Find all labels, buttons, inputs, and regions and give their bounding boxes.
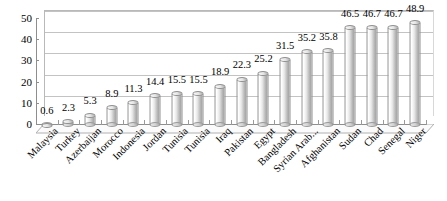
bar-chart: 01020304050 0.62.35.38.911.314.415.515.5… xyxy=(0,0,447,201)
x-axis-tick-mark xyxy=(101,120,102,125)
bar-value-label: 46.5 xyxy=(341,9,359,20)
bar-value-label: 8.9 xyxy=(105,89,118,100)
bar-slot[interactable]: 46.5 xyxy=(339,18,361,124)
x-axis-tick-mark xyxy=(426,120,427,125)
bar-cylinder[interactable] xyxy=(63,119,74,124)
x-axis-category-label: Sudan xyxy=(338,126,364,152)
bar-body xyxy=(236,80,247,124)
x-axis-tick-mark xyxy=(361,120,362,125)
bar-top-ellipse xyxy=(410,20,421,25)
bar-top-ellipse xyxy=(85,113,96,118)
bar-body xyxy=(215,87,226,124)
bar-slot[interactable]: 18.9 xyxy=(209,18,231,124)
bar-cylinder[interactable] xyxy=(128,100,139,124)
bar-body xyxy=(410,23,421,124)
bar-body xyxy=(301,52,312,124)
bar-body xyxy=(388,28,399,124)
bar-cylinder[interactable] xyxy=(280,57,291,124)
bar-cylinder[interactable] xyxy=(171,91,182,124)
bar-cylinder[interactable] xyxy=(41,123,52,125)
x-axis-tick-mark xyxy=(383,120,384,125)
y-axis-tick-label: 20 xyxy=(21,76,32,87)
x-axis-tick-mark xyxy=(123,120,124,125)
x-axis-tick-mark xyxy=(79,120,80,125)
bar-top-ellipse xyxy=(128,100,139,105)
bar-cylinder[interactable] xyxy=(410,20,421,124)
bar-body xyxy=(128,103,139,124)
bar-value-label: 5.3 xyxy=(84,96,97,107)
bar-top-ellipse xyxy=(301,49,312,54)
bar-cylinder[interactable] xyxy=(236,77,247,124)
bar-value-label: 18.9 xyxy=(211,67,229,78)
bar-top-ellipse xyxy=(345,25,356,30)
bar-cylinder[interactable] xyxy=(345,25,356,124)
bar-top-ellipse xyxy=(258,71,269,76)
bar-cylinder[interactable] xyxy=(301,49,312,124)
x-axis-tick-mark xyxy=(318,120,319,125)
bar-value-label: 0.6 xyxy=(40,106,53,117)
y-axis-tick-label: 0 xyxy=(27,119,33,130)
bar-top-ellipse xyxy=(236,77,247,82)
x-axis-category-labels: MalaysiaTurkeyAzerbaijanMoroccoIndonesia… xyxy=(36,126,434,201)
bar-cylinder[interactable] xyxy=(106,105,117,124)
bar-cylinder[interactable] xyxy=(366,25,377,124)
bar-slot[interactable]: 22.3 xyxy=(231,18,253,124)
bar-slot[interactable]: 35.8 xyxy=(318,18,340,124)
x-axis-tick-mark xyxy=(58,120,59,125)
y-axis-tick-label: 40 xyxy=(21,34,32,45)
bar-slot[interactable]: 8.9 xyxy=(101,18,123,124)
y-axis-tick-mark xyxy=(36,103,39,104)
bar-slot[interactable]: 35.2 xyxy=(296,18,318,124)
x-axis-tick-mark xyxy=(404,120,405,125)
bar-body xyxy=(280,60,291,124)
bar-cylinder[interactable] xyxy=(150,93,161,124)
bar-slot[interactable]: 5.3 xyxy=(79,18,101,124)
x-axis-tick-mark xyxy=(188,120,189,125)
bar-value-label: 22.3 xyxy=(233,60,251,71)
bar-slot[interactable]: 2.3 xyxy=(58,18,80,124)
x-axis-tick-mark xyxy=(274,120,275,125)
y-axis-tick-label: 50 xyxy=(21,13,32,24)
bar-slot[interactable]: 0.6 xyxy=(36,18,58,124)
bar-value-label: 14.4 xyxy=(146,77,164,88)
y-axis-tick-label: 30 xyxy=(21,55,32,66)
x-axis-tick-mark xyxy=(231,120,232,125)
bar-body xyxy=(258,74,269,124)
x-axis-category-label: Niger xyxy=(404,126,428,150)
bar-top-ellipse xyxy=(215,84,226,89)
bar-slot[interactable]: 14.4 xyxy=(144,18,166,124)
bar-slot[interactable]: 15.5 xyxy=(166,18,188,124)
bar-top-ellipse xyxy=(366,25,377,30)
bar-slot[interactable]: 48.9 xyxy=(404,18,426,124)
bar-cylinder[interactable] xyxy=(193,91,204,124)
x-axis-tick-mark xyxy=(296,120,297,125)
x-axis-tick-mark xyxy=(253,120,254,125)
bar-top-ellipse xyxy=(106,105,117,110)
bar-cylinder[interactable] xyxy=(215,84,226,124)
y-axis-tick-label: 10 xyxy=(21,97,32,108)
y-axis-tick-mark xyxy=(36,39,39,40)
y-axis-tick-mark xyxy=(36,60,39,61)
bar-cylinder[interactable] xyxy=(85,113,96,124)
bar-top-ellipse xyxy=(388,25,399,30)
bar-cylinder[interactable] xyxy=(258,71,269,124)
bar-slot[interactable]: 31.5 xyxy=(274,18,296,124)
bar-value-label: 15.5 xyxy=(168,75,186,86)
bar-slot[interactable]: 15.5 xyxy=(188,18,210,124)
bar-value-label: 15.5 xyxy=(189,75,207,86)
bar-value-label: 46.7 xyxy=(384,9,402,20)
bar-slot[interactable]: 46.7 xyxy=(361,18,383,124)
bar-cylinder[interactable] xyxy=(323,48,334,124)
bar-cylinder[interactable] xyxy=(388,25,399,124)
bars-layer: 0.62.35.38.911.314.415.515.518.922.325.2… xyxy=(36,18,434,124)
bar-top-ellipse xyxy=(171,91,182,96)
y-axis-tick-mark xyxy=(36,82,39,83)
bar-slot[interactable]: 46.7 xyxy=(383,18,405,124)
x-axis-tick-mark xyxy=(339,120,340,125)
bar-body xyxy=(366,28,377,124)
bar-slot[interactable]: 11.3 xyxy=(123,18,145,124)
x-axis-tick-mark xyxy=(209,120,210,125)
bar-slot[interactable]: 25.2 xyxy=(253,18,275,124)
x-axis-tick-mark xyxy=(166,120,167,125)
bar-top-ellipse xyxy=(323,48,334,53)
